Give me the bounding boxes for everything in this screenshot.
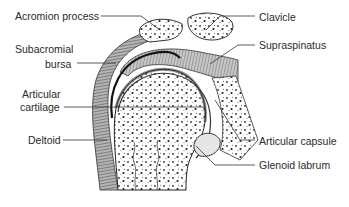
label-articular-cartilage-line2: cartilage <box>20 101 60 113</box>
label-subacromial-bursa-line1: Subacromial <box>15 43 73 55</box>
shoulder-diagram: Acromion process Subacromial bursa Artic… <box>0 0 349 207</box>
glenoid-labrum <box>194 133 220 156</box>
label-articular-cartilage-line1: Articular <box>22 88 61 100</box>
label-articular-capsule: Articular capsule <box>259 135 337 147</box>
label-glenoid-labrum: Glenoid labrum <box>259 159 330 171</box>
label-subacromial-bursa-line2: bursa <box>45 58 71 70</box>
clavicle <box>188 13 233 40</box>
humerus <box>114 69 205 190</box>
label-acromion-process: Acromion process <box>15 10 99 22</box>
acromion-process <box>139 19 182 42</box>
label-clavicle: Clavicle <box>259 11 296 23</box>
label-supraspinatus: Supraspinatus <box>259 39 326 51</box>
label-deltoid: Deltoid <box>28 134 61 146</box>
